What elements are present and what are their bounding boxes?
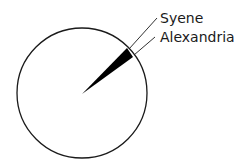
alexandria-label: Alexandria (160, 29, 235, 45)
angle-wedge (82, 48, 133, 94)
syene-label: Syene (160, 10, 203, 26)
eratosthenes-diagram: Syene Alexandria (0, 0, 236, 167)
earth-circle (17, 28, 147, 158)
syene-pointer-line (129, 18, 157, 49)
